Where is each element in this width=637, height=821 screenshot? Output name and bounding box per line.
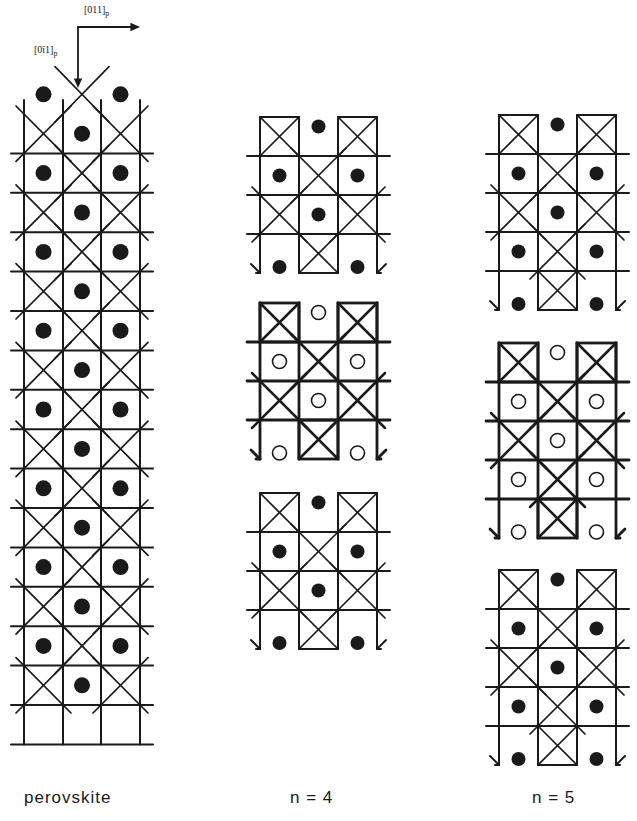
open-cation-marker — [590, 395, 604, 409]
filled-cation-marker — [113, 323, 129, 339]
filled-cation-marker — [36, 480, 52, 496]
axis-h-sub: p — [105, 9, 109, 18]
corner-hook — [616, 301, 625, 310]
filled-cation-marker — [590, 297, 604, 311]
filled-cation-marker — [351, 169, 365, 183]
label-n5: n = 5 — [532, 788, 575, 808]
filled-cation-marker — [551, 661, 565, 675]
filled-cation-marker — [590, 167, 604, 181]
filled-cation-marker — [74, 126, 90, 142]
filled-cation-marker — [36, 638, 52, 654]
filled-cation-marker — [512, 297, 526, 311]
axis-v-text: [0ī1] — [34, 44, 53, 55]
filled-cation-marker — [273, 169, 287, 183]
filled-cation-marker — [551, 206, 565, 220]
filled-cation-marker — [36, 323, 52, 339]
filled-cation-marker — [590, 245, 604, 259]
corner-hook — [251, 264, 260, 273]
filled-cation-marker — [113, 638, 129, 654]
filled-cation-marker — [351, 636, 365, 650]
corner-hook — [616, 756, 625, 765]
open-cation-marker — [312, 394, 326, 408]
filled-cation-marker — [36, 86, 52, 102]
filled-cation-marker — [74, 520, 90, 536]
filled-cation-marker — [273, 260, 287, 274]
filled-cation-marker — [551, 573, 565, 587]
filled-cation-marker — [512, 245, 526, 259]
filled-cation-marker — [74, 441, 90, 457]
filled-cation-marker — [113, 559, 129, 575]
open-cation-marker — [512, 473, 526, 487]
corner-hook — [251, 640, 260, 649]
filled-cation-marker — [312, 120, 326, 134]
filled-cation-marker — [512, 622, 526, 636]
arrow-head-icon — [130, 23, 140, 31]
open-cation-marker — [273, 446, 287, 460]
filled-cation-marker — [113, 165, 129, 181]
filled-cation-marker — [590, 752, 604, 766]
filled-cation-marker — [312, 496, 326, 510]
label-n4: n = 4 — [290, 788, 333, 808]
filled-cation-marker — [74, 599, 90, 615]
filled-cation-marker — [36, 402, 52, 418]
open-cation-marker — [590, 525, 604, 539]
open-cation-marker — [351, 355, 365, 369]
filled-cation-marker — [74, 362, 90, 378]
filled-cation-marker — [74, 205, 90, 221]
open-cation-marker — [590, 473, 604, 487]
open-cation-marker — [351, 446, 365, 460]
filled-cation-marker — [36, 244, 52, 260]
corner-hook — [490, 756, 499, 765]
label-perovskite: perovskite — [24, 788, 111, 808]
filled-cation-marker — [590, 700, 604, 714]
filled-cation-marker — [36, 559, 52, 575]
filled-cation-marker — [273, 545, 287, 559]
open-cation-marker — [512, 525, 526, 539]
filled-cation-marker — [113, 480, 129, 496]
filled-cation-marker — [113, 402, 129, 418]
corner-hook — [490, 301, 499, 310]
filled-cation-marker — [36, 165, 52, 181]
filled-cation-marker — [312, 584, 326, 598]
open-cation-marker — [312, 306, 326, 320]
filled-cation-marker — [113, 244, 129, 260]
filled-cation-marker — [512, 167, 526, 181]
corner-hook — [377, 264, 386, 273]
filled-cation-marker — [273, 636, 287, 650]
axis-v-sub: p — [53, 49, 57, 58]
filled-cation-marker — [312, 208, 326, 222]
filled-cation-marker — [113, 86, 129, 102]
open-cation-marker — [551, 346, 565, 360]
filled-cation-marker — [351, 260, 365, 274]
axis-h-text: [011] — [84, 4, 105, 15]
filled-cation-marker — [590, 622, 604, 636]
structure-figure — [0, 0, 637, 821]
filled-cation-marker — [351, 545, 365, 559]
filled-cation-marker — [74, 283, 90, 299]
open-cation-marker — [512, 395, 526, 409]
filled-cation-marker — [512, 752, 526, 766]
corner-hook — [377, 640, 386, 649]
open-cation-marker — [551, 434, 565, 448]
axis-label-horizontal: [011]p — [84, 4, 109, 18]
filled-cation-marker — [512, 700, 526, 714]
open-cation-marker — [273, 355, 287, 369]
filled-cation-marker — [74, 677, 90, 693]
axis-label-vertical: [0ī1]p — [34, 44, 57, 58]
filled-cation-marker — [551, 118, 565, 132]
